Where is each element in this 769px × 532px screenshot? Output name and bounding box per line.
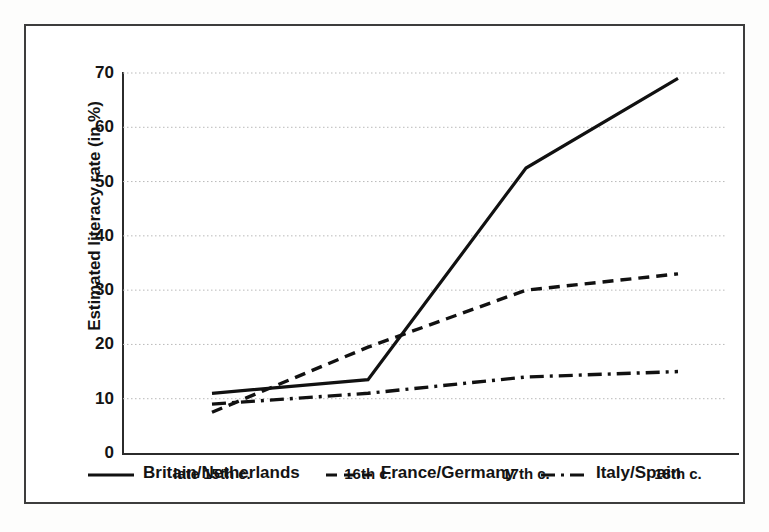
y-tick-label: 70 [95,63,114,83]
series-canvas [123,73,726,453]
x-axis-spine [122,453,739,455]
legend-label: Britain/Netherlands [143,463,300,483]
y-tick-label: 20 [95,334,114,354]
figure-canvas: Estimated literacy rate (in %) 010203040… [0,0,769,532]
y-tick-label: 10 [95,389,114,409]
legend-label: Italy/Spain [596,463,681,483]
y-axis-title: Estimated literacy rate (in %) [85,51,105,381]
legend-item-2[interactable]: France/Germany [326,463,515,483]
chart-legend: Britain/NetherlandsFrance/GermanyItaly/S… [24,463,745,483]
y-tick-label: 60 [95,117,114,137]
chart-frame: Estimated literacy rate (in %) 010203040… [24,24,745,504]
legend-line-swatch-dashed-icon [326,467,372,479]
legend-item-1[interactable]: Britain/Netherlands [88,463,300,483]
y-tick-label: 30 [95,280,114,300]
y-tick-label: 0 [105,443,114,463]
y-tick-label: 50 [95,172,114,192]
plot-area: 010203040506070 late 15th c.16th c.17th … [123,73,726,453]
y-tick-label: 40 [95,226,114,246]
legend-line-swatch-solid-icon [88,467,134,479]
data-series-group [212,78,678,412]
legend-line-swatch-dash-dot-icon [541,467,587,479]
legend-label: France/Germany [381,463,515,483]
legend-item-3[interactable]: Italy/Spain [541,463,681,483]
series-line-2 [212,274,678,412]
grid-lines [123,73,726,399]
